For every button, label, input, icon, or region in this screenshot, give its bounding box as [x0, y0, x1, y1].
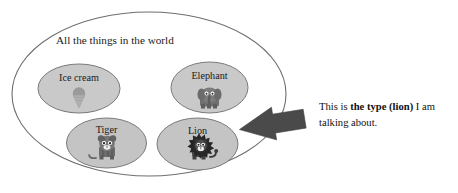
figure-canvas: All the things in the world Ice cream El… [0, 0, 458, 193]
set-elephant[interactable]: Elephant [171, 62, 248, 113]
tiger-label: Tiger [96, 124, 118, 135]
elephant-label: Elephant [191, 70, 227, 81]
annotation-text: This is the type (lion) I am talking abo… [319, 99, 455, 130]
ice-cream-label: Ice cream [59, 72, 99, 83]
elephant-icon [198, 88, 222, 109]
set-ice-cream[interactable]: Ice cream [38, 64, 120, 113]
annotation-suffix: I am [413, 101, 435, 112]
annotation-emphasis: the type (lion) [350, 101, 413, 112]
lion-label: Lion [188, 125, 207, 136]
annotation-prefix: This is [319, 101, 350, 112]
set-tiger[interactable]: Tiger [67, 118, 147, 168]
universe-label: All the things in the world [56, 34, 174, 46]
set-diagram: All the things in the world Ice cream El… [0, 0, 458, 193]
annotation-line2: talking about. [319, 117, 377, 128]
set-lion[interactable]: Lion [157, 118, 238, 170]
